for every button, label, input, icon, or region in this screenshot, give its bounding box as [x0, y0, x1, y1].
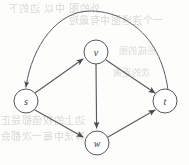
directed-graph-canvas: s v w t [0, 0, 189, 165]
node-s-label: s [24, 96, 28, 107]
node-group: s v w t [14, 40, 177, 155]
node-t[interactable]: t [153, 89, 177, 113]
edge-s-to-v [35, 59, 83, 93]
node-v[interactable]: v [84, 40, 108, 64]
edge-v-to-w [96, 64, 97, 128]
figure-root: 外的图 中以 边的下 一个连通图中有最短 形成的图 次的距离 边上的权值都是正 … [0, 0, 189, 165]
node-s[interactable]: s [14, 89, 38, 113]
node-w-label: w [94, 138, 101, 149]
node-v-label: v [94, 47, 99, 58]
edge-w-to-t [108, 110, 155, 137]
node-w[interactable]: w [85, 131, 109, 155]
edge-group [26, 11, 168, 137]
edge-s-to-w [35, 110, 83, 137]
node-t-label: t [164, 96, 167, 107]
edge-v-to-t [106, 60, 155, 93]
